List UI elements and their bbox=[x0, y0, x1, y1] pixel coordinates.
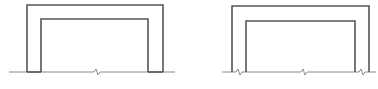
frame-outer-outline bbox=[27, 5, 163, 72]
frame-outer-outline bbox=[232, 6, 369, 72]
frame-right bbox=[222, 6, 376, 75]
frame-inner-outline bbox=[41, 19, 148, 72]
ground-line bbox=[222, 69, 376, 75]
frame-inner-outline bbox=[246, 21, 355, 72]
frame-left bbox=[9, 5, 175, 75]
frames-diagram bbox=[0, 0, 378, 89]
diagram-canvas bbox=[0, 0, 378, 89]
